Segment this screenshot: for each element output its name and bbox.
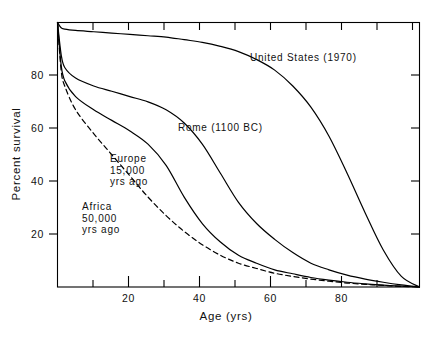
series-label-europe: Europe 15,000 yrs ago (110, 153, 148, 188)
series-label-africa-line2: 50,000 (82, 213, 120, 225)
x-tick-label-60: 60 (256, 292, 286, 304)
plot-area (0, 0, 436, 337)
y-tick-label-40: 40 (22, 175, 44, 187)
y-axis-ticks (49, 75, 58, 234)
y-tick-label-80: 80 (22, 69, 44, 81)
survival-curve-figure: 80 60 40 20 20 40 60 80 Percent survival… (0, 0, 436, 337)
x-tick-label-40: 40 (185, 292, 215, 304)
x-axis-ticks-top (93, 23, 413, 31)
series-label-united-states: United States (1970) (250, 52, 357, 64)
series-label-africa-line3: yrs ago (82, 224, 120, 236)
x-tick-label-80: 80 (327, 292, 357, 304)
x-axis-ticks (93, 276, 377, 287)
series-label-rome: Rome (1100 BC) (178, 122, 263, 134)
series-label-europe-line2: 15,000 (110, 165, 148, 177)
y-axis-title: Percent survival (10, 94, 22, 214)
series-label-africa: Africa 50,000 yrs ago (82, 201, 120, 236)
series-label-europe-line3: yrs ago (110, 176, 148, 188)
x-axis-title: Age (yrs) (163, 310, 289, 322)
y-tick-label-20: 20 (22, 228, 44, 240)
series-label-europe-line1: Europe (110, 153, 148, 165)
y-tick-label-60: 60 (22, 122, 44, 134)
x-tick-label-20: 20 (114, 292, 144, 304)
y-axis-ticks-right (411, 75, 420, 234)
series-label-africa-line1: Africa (82, 201, 120, 213)
